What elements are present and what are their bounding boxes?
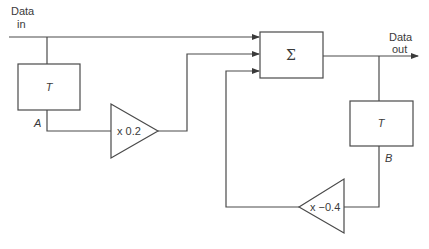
gain-a-label: x 0.2 — [117, 125, 141, 137]
gain-a-to-sum-wire — [158, 54, 259, 131]
delay-a-to-gain-a-wire — [47, 110, 111, 131]
data-out-label-line2: out — [392, 43, 407, 55]
delay-b-to-gain-b-wire — [344, 146, 379, 207]
gain-b-label: x −0.4 — [310, 201, 340, 213]
node-b-label: B — [385, 152, 392, 164]
gain-block-b: x −0.4 — [299, 179, 344, 233]
data-in-label-line2: in — [17, 18, 26, 30]
sum-symbol: Σ — [286, 47, 296, 63]
data-in-label-line1: Data — [11, 5, 35, 17]
summer-block: Σ — [260, 32, 323, 78]
delay-block-a: T — [18, 64, 80, 110]
data-out-label-line1: Data — [389, 31, 413, 43]
node-a-label: A — [33, 117, 41, 129]
gain-b-to-sum-wire — [226, 71, 299, 207]
gain-block-a: x 0.2 — [111, 104, 158, 158]
block-diagram: Data in T A x 0.2 Σ Data out T B x −0 — [0, 0, 429, 249]
delay-block-b: T — [350, 101, 413, 146]
